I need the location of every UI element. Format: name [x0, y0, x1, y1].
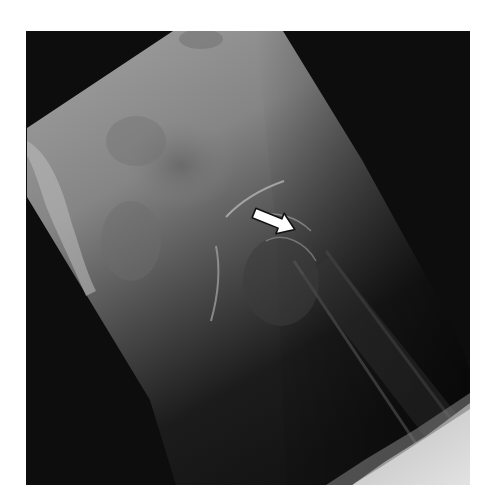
xray-frame [26, 31, 470, 485]
xray-image [26, 31, 470, 485]
